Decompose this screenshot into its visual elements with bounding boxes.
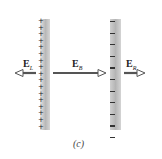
field-label-e-right: ER bbox=[126, 58, 136, 71]
field-arrows bbox=[0, 0, 162, 159]
figure-caption: (c) bbox=[73, 138, 84, 149]
field-label-e-between: EB bbox=[72, 58, 82, 71]
field-label-e-left: EL bbox=[23, 58, 33, 71]
